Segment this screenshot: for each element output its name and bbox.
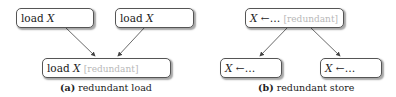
arrow-a-right bbox=[118, 27, 145, 56]
node-load-x-redundant: load X [redundant] bbox=[42, 58, 171, 78]
arrow-a-left bbox=[65, 27, 95, 56]
op-label: ←… bbox=[236, 62, 255, 74]
node-store-left: X ←… bbox=[220, 58, 282, 78]
var-label: X bbox=[47, 12, 54, 24]
node-load-x-right: load X bbox=[115, 8, 194, 28]
caption-a: (a) redundant load bbox=[60, 82, 152, 93]
var-label: X bbox=[250, 12, 257, 24]
var-label: X bbox=[325, 62, 332, 74]
node-store-redundant: X ←… [redundant] bbox=[245, 8, 344, 28]
op-label: load bbox=[47, 62, 70, 74]
var-label: X bbox=[225, 62, 232, 74]
caption-a-text: redundant load bbox=[78, 82, 152, 93]
caption-b: (b) redundant store bbox=[258, 82, 354, 93]
redundant-note: [redundant] bbox=[84, 64, 139, 74]
op-label: ←… bbox=[336, 62, 355, 74]
arrow-b-right bbox=[310, 27, 340, 56]
caption-a-label: (a) bbox=[60, 82, 75, 93]
caption-b-text: redundant store bbox=[277, 82, 355, 93]
var-label: X bbox=[73, 62, 80, 74]
op-label: load bbox=[21, 12, 44, 24]
op-label: load bbox=[120, 12, 143, 24]
caption-b-label: (b) bbox=[258, 82, 274, 93]
var-label: X bbox=[146, 12, 153, 24]
node-store-right: X ←… bbox=[320, 58, 382, 78]
op-label: ←… bbox=[261, 12, 280, 24]
arrow-b-left bbox=[260, 27, 288, 56]
redundant-note: [redundant] bbox=[283, 14, 338, 24]
node-load-x-left: load X bbox=[16, 8, 94, 28]
